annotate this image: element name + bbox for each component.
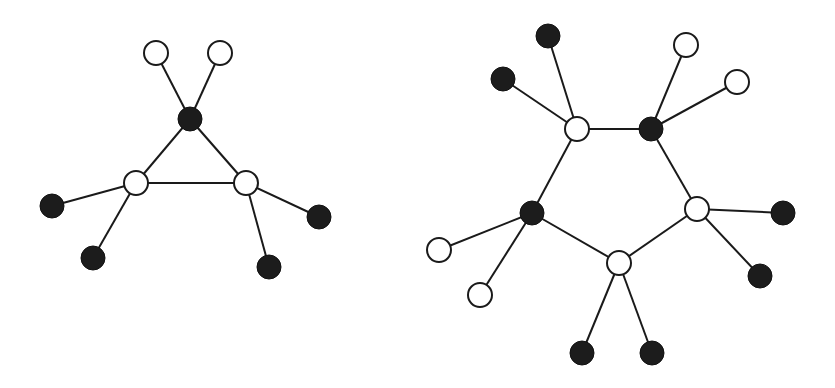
open-atom-node — [725, 70, 749, 94]
open-atom-node — [685, 197, 709, 221]
three-ring-graph — [40, 41, 331, 279]
filled-atom-node — [570, 341, 594, 365]
filled-atom-node — [178, 107, 202, 131]
open-atom-node — [208, 41, 232, 65]
open-atom-node — [674, 33, 698, 57]
bond-edge — [532, 213, 619, 263]
open-atom-node — [565, 117, 589, 141]
five-ring-nodes — [427, 24, 795, 365]
filled-atom-node — [257, 255, 281, 279]
bond-edge — [582, 263, 619, 353]
bond-edge — [439, 213, 532, 250]
filled-atom-node — [771, 201, 795, 225]
filled-atom-node — [639, 117, 663, 141]
bond-edge — [619, 263, 652, 353]
three-ring-nodes — [40, 41, 331, 279]
bond-edge — [651, 82, 737, 129]
filled-atom-node — [748, 264, 772, 288]
five-ring-graph — [427, 24, 795, 365]
bond-edge — [651, 129, 697, 209]
bond-edge — [697, 209, 760, 276]
three-ring-edges — [52, 53, 319, 267]
open-atom-node — [607, 251, 631, 275]
bond-edge — [480, 213, 532, 295]
bond-edge — [548, 36, 577, 129]
filled-atom-node — [520, 201, 544, 225]
bond-edge — [651, 45, 686, 129]
bond-edge — [619, 209, 697, 263]
filled-atom-node — [491, 67, 515, 91]
filled-atom-node — [81, 246, 105, 270]
filled-atom-node — [640, 341, 664, 365]
open-atom-node — [468, 283, 492, 307]
bond-edge — [52, 183, 136, 206]
open-atom-node — [234, 171, 258, 195]
filled-atom-node — [307, 205, 331, 229]
molecular-graph-diagram — [0, 0, 835, 388]
open-atom-node — [124, 171, 148, 195]
open-atom-node — [427, 238, 451, 262]
bond-edge — [503, 79, 577, 129]
filled-atom-node — [536, 24, 560, 48]
bond-edge — [246, 183, 269, 267]
bond-edge — [532, 129, 577, 213]
filled-atom-node — [40, 194, 64, 218]
open-atom-node — [144, 41, 168, 65]
